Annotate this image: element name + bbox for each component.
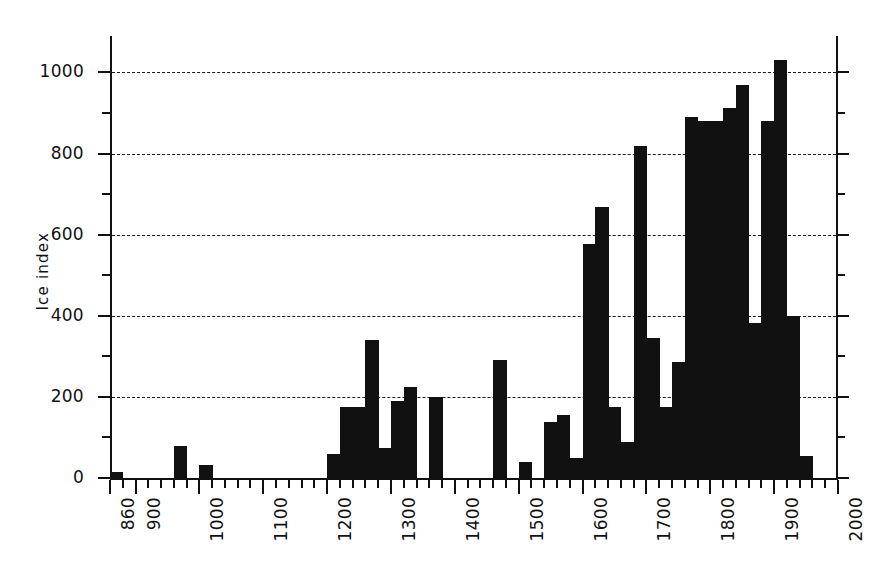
x-axis-tick [518,480,520,494]
x-axis-minor-tick [249,480,251,488]
x-axis-tick-label: 1700 [654,497,674,541]
bar [493,360,506,478]
chart-figure: Ice index 02004006008001000 860900100011… [0,0,889,569]
bar [570,458,583,478]
x-axis-minor-tick [428,480,430,488]
bar [749,323,762,478]
x-axis-tick [645,480,647,494]
bar-series [110,36,838,478]
x-axis-minor-tick [147,480,149,488]
x-axis-line [110,478,838,480]
x-axis-minor-tick [799,480,801,488]
bar [761,121,774,478]
x-axis-minor-tick [569,480,571,488]
bar [365,340,378,478]
x-axis-tick-label: 1300 [399,497,419,541]
bar [110,472,123,478]
bar [327,454,340,478]
x-axis-minor-tick [748,480,750,488]
x-axis-minor-tick [697,480,699,488]
bar [723,108,736,478]
bar [710,121,723,478]
x-axis-minor-tick [530,480,532,488]
x-axis-minor-tick [722,480,724,488]
bar [774,60,787,478]
x-axis-tick [390,480,392,494]
bar [685,117,698,478]
bar [340,407,353,478]
x-axis-tick [109,480,111,494]
x-axis-minor-tick [313,480,315,488]
x-axis-tick [582,480,584,494]
bar [544,422,557,478]
y-axis-title: Ice index [34,232,52,311]
x-axis-minor-tick [620,480,622,488]
x-axis-minor-tick [633,480,635,488]
x-axis-minor-tick [658,480,660,488]
bar [519,462,532,478]
bar [353,407,366,478]
x-axis-tick-label: 1100 [271,497,291,541]
x-axis-tick-label: 1000 [207,497,227,541]
x-axis-minor-tick [403,480,405,488]
x-axis-tick [837,480,839,494]
bar [800,456,813,478]
x-axis-minor-tick [684,480,686,488]
y-axis-tick-label: 800 [28,143,84,163]
x-axis-tick [773,480,775,494]
x-axis-tick [262,480,264,494]
y-axis-tick-label: 600 [28,224,84,244]
x-axis-tick [709,480,711,494]
x-axis-minor-tick [237,480,239,488]
x-axis-minor-tick [671,480,673,488]
bar [608,407,621,478]
x-axis-minor-tick [122,480,124,488]
bar [378,448,391,478]
x-axis-tick [326,480,328,494]
x-axis-tick-label: 860 [118,497,138,530]
x-axis-minor-tick [301,480,303,488]
x-axis-minor-tick [786,480,788,488]
y-axis-tick-label: 1000 [28,61,84,81]
x-axis-minor-tick [505,480,507,488]
x-axis-minor-tick [607,480,609,488]
x-axis-tick [454,480,456,494]
x-axis-tick-label: 1400 [463,497,483,541]
x-axis-minor-tick [352,480,354,488]
x-axis-minor-tick [467,480,469,488]
bar [787,316,800,478]
x-axis-minor-tick [288,480,290,488]
x-axis-minor-tick [377,480,379,488]
x-axis-tick-label: 1200 [335,497,355,541]
x-axis-tick-label: 1900 [782,497,802,541]
bar [698,121,711,478]
bar [634,146,647,479]
y-axis-tick-label: 0 [28,467,84,487]
x-axis-minor-tick [275,480,277,488]
bar [583,244,596,478]
bar [646,338,659,478]
bar [672,362,685,478]
x-axis-minor-tick [492,480,494,488]
x-axis-minor-tick [824,480,826,488]
bar [621,442,634,478]
x-axis-minor-tick [364,480,366,488]
x-axis-minor-tick [224,480,226,488]
bar [199,465,212,478]
x-axis-tick-label: 1500 [527,497,547,541]
x-axis-tick [135,480,137,494]
bar [429,397,442,478]
x-axis-tick-label: 1800 [718,497,738,541]
x-axis-minor-tick [441,480,443,488]
x-axis-minor-tick [543,480,545,488]
bar [595,207,608,478]
x-axis-minor-tick [416,480,418,488]
y-axis-tick-label: 200 [28,386,84,406]
bar [736,85,749,478]
x-axis-tick [198,480,200,494]
y-axis-tick-label: 400 [28,305,84,325]
x-axis-minor-tick [760,480,762,488]
bar [391,401,404,478]
bar [174,446,187,478]
x-axis-minor-tick [173,480,175,488]
